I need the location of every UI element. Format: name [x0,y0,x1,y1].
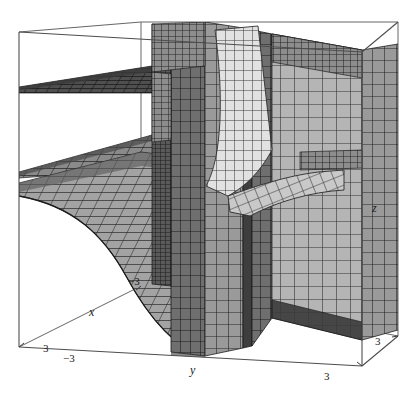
axis-label-y: y [189,363,196,377]
axis-label-z: z [371,201,377,215]
tick-x-neg3-lower: −3 [63,352,75,364]
surface-wedge-right [300,150,362,170]
surface-plot-figure: x y z −3 −3 3 3 3 [0,0,416,402]
tick-y-3-right: 3 [324,370,330,382]
tick-y-3-left: 3 [43,342,49,354]
axis-label-x: x [88,305,95,319]
surface-top-block-left [152,22,205,72]
asymptote-wall-far-right [362,44,398,340]
surface-geometry [19,22,398,362]
tick-z-3: 3 [375,335,381,347]
tick-x-neg3-upper: −3 [128,275,140,287]
asymptote-wall-left-front [171,22,205,356]
surface-mesh-column-back [152,72,171,142]
plot-canvas: x y z −3 −3 3 3 3 [0,0,416,402]
